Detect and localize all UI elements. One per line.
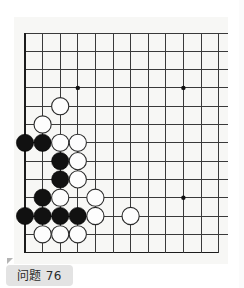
star-point	[76, 86, 80, 90]
go-board-canvas[interactable]	[14, 17, 228, 264]
black-stone[interactable]	[34, 207, 51, 224]
white-stone[interactable]	[34, 226, 51, 243]
white-stone[interactable]	[69, 171, 86, 188]
page-edge	[239, 0, 244, 288]
white-stone[interactable]	[122, 207, 139, 224]
black-stone[interactable]	[52, 207, 69, 224]
white-stone[interactable]	[69, 134, 86, 151]
problem-caption-label: 问题 76	[17, 270, 62, 282]
problem-caption: 问题 76	[6, 265, 73, 286]
black-stone[interactable]	[16, 207, 33, 224]
black-stone[interactable]	[34, 134, 51, 151]
white-stone[interactable]	[69, 226, 86, 243]
white-stone[interactable]	[87, 207, 104, 224]
white-stone[interactable]	[52, 226, 69, 243]
black-stone[interactable]	[16, 134, 33, 151]
go-board[interactable]	[14, 17, 228, 264]
white-stone[interactable]	[87, 189, 104, 206]
page-corner-marker	[7, 258, 13, 264]
star-point	[181, 86, 185, 90]
white-stone[interactable]	[52, 98, 69, 115]
white-stone[interactable]	[52, 189, 69, 206]
black-stone[interactable]	[52, 171, 69, 188]
white-stone[interactable]	[52, 134, 69, 151]
white-stone[interactable]	[69, 153, 86, 170]
black-stone[interactable]	[69, 207, 86, 224]
go-problem-page: 问题 76	[0, 0, 244, 288]
star-point	[181, 196, 185, 200]
black-stone[interactable]	[52, 153, 69, 170]
black-stone[interactable]	[34, 189, 51, 206]
white-stone[interactable]	[34, 116, 51, 133]
